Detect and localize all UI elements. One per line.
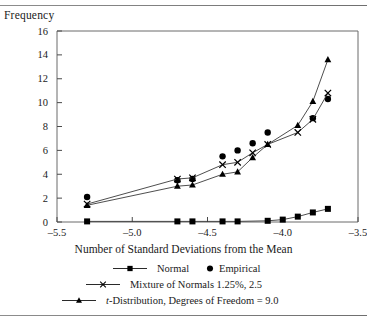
frequency-tail-chart: 0246810121416–5.5–5.0–4.5–4.0–3.5NormalE… [0,0,367,318]
x-axis: –5.5–5.0–4.5–4.0–3.5 [47,217,367,238]
y-tick-label: 2 [43,193,48,204]
y-tick-label: 16 [38,26,49,37]
y-tick-label: 14 [38,49,49,60]
legend-label: Empirical [219,263,260,274]
legend-label: t-Distribution, Degrees of Freedom = 9.0 [106,295,278,306]
y-tick-label: 4 [43,169,49,180]
y-tick-label: 6 [43,145,48,156]
legend-item: t-Distribution, Degrees of Freedom = 9.0 [62,295,278,306]
plot-frame [57,31,358,222]
y-tick-label: 8 [43,121,48,132]
series-empirical [84,96,331,200]
y-axis: 0246810121416 [38,26,63,228]
legend-item: Mixture of Normals 1.25%, 2.5 [86,279,262,290]
y-tick-label: 12 [38,73,49,84]
x-tick-label: –5.5 [47,227,66,238]
x-tick-label: –3.5 [348,227,367,238]
legend-label: Mixture of Normals 1.25%, 2.5 [130,279,262,290]
legend-item: Normal [113,263,189,274]
series-t-distribution [84,56,332,208]
series-mixture [84,90,331,207]
chart-legend: NormalEmpiricalMixture of Normals 1.25%,… [62,263,278,306]
y-tick-label: 10 [38,97,49,108]
x-axis-title: Number of Standard Deviations from the M… [0,243,367,255]
x-tick-label: –4.0 [273,227,292,238]
bottom-divider [0,315,367,316]
legend-item: Empirical [207,263,261,274]
x-tick-label: –5.0 [122,227,141,238]
x-tick-label: –4.5 [197,227,216,238]
y-tick-label: 0 [43,217,48,228]
chart-page: Frequency 0246810121416–5.5–5.0–4.5–4.0–… [0,0,367,318]
legend-label: Normal [157,263,189,274]
